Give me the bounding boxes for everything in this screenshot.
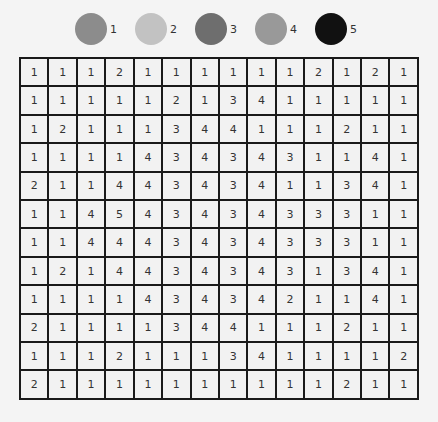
grid-cell: 2 xyxy=(105,342,133,370)
grid-cell: 1 xyxy=(361,200,389,228)
legend-label: 2 xyxy=(170,23,177,36)
grid-cell: 1 xyxy=(333,58,361,86)
grid-cell: 2 xyxy=(389,342,418,370)
grid-cell: 4 xyxy=(134,200,162,228)
grid-cell: 3 xyxy=(219,285,247,313)
grid-cell: 1 xyxy=(247,58,275,86)
grid-cell: 1 xyxy=(134,115,162,143)
grid-cell: 1 xyxy=(361,86,389,114)
grid-cell: 1 xyxy=(162,58,190,86)
grid-cell: 1 xyxy=(304,172,332,200)
grid-cell: 1 xyxy=(191,86,219,114)
grid-cell: 1 xyxy=(77,172,105,200)
grid-cell: 4 xyxy=(77,228,105,256)
grid-cell: 1 xyxy=(162,370,190,399)
grid-cell: 1 xyxy=(77,115,105,143)
grid-cell: 1 xyxy=(134,58,162,86)
grid-cell: 4 xyxy=(191,257,219,285)
grid-cell: 1 xyxy=(48,86,76,114)
legend-label: 3 xyxy=(230,23,237,36)
grid-cell: 1 xyxy=(48,200,76,228)
grid-cell: 1 xyxy=(361,115,389,143)
grid-cell: 4 xyxy=(247,86,275,114)
grid-cell: 4 xyxy=(219,314,247,342)
grid-cell: 1 xyxy=(20,86,48,114)
grid-cell: 4 xyxy=(105,172,133,200)
grid-cell: 3 xyxy=(162,200,190,228)
grid-cell: 4 xyxy=(77,200,105,228)
grid-cell: 3 xyxy=(219,172,247,200)
grid-cell: 1 xyxy=(48,143,76,171)
grid-row: 21111111111211 xyxy=(20,370,418,399)
grid-cell: 1 xyxy=(77,257,105,285)
grid-cell: 2 xyxy=(304,58,332,86)
legend-item-5: 5 xyxy=(315,13,357,45)
legend-label: 5 xyxy=(350,23,357,36)
legend-item-4: 4 xyxy=(255,13,297,45)
grid-cell: 2 xyxy=(276,285,304,313)
legend-item-3: 3 xyxy=(195,13,237,45)
grid-cell: 3 xyxy=(162,314,190,342)
grid-cell: 4 xyxy=(361,143,389,171)
grid-cell: 4 xyxy=(191,115,219,143)
grid-cell: 1 xyxy=(276,115,304,143)
grid-cell: 2 xyxy=(20,314,48,342)
grid-cell: 1 xyxy=(361,370,389,399)
grid-cell: 1 xyxy=(389,314,418,342)
grid-cell: 3 xyxy=(276,257,304,285)
grid-row: 11114343431141 xyxy=(20,143,418,171)
grid-cell: 3 xyxy=(219,257,247,285)
grid-row: 21144343411341 xyxy=(20,172,418,200)
grid-cell: 2 xyxy=(333,115,361,143)
grid-cell: 4 xyxy=(191,200,219,228)
grid-cell: 3 xyxy=(276,228,304,256)
grid-cell: 1 xyxy=(304,342,332,370)
grid-cell: 1 xyxy=(20,228,48,256)
grid-cell: 1 xyxy=(333,143,361,171)
grid-cell: 4 xyxy=(247,200,275,228)
grid-cell: 2 xyxy=(333,314,361,342)
grid-cell: 1 xyxy=(304,143,332,171)
grid-cell: 1 xyxy=(389,86,418,114)
grid-cell: 1 xyxy=(105,86,133,114)
grid-cell: 3 xyxy=(276,200,304,228)
grid-cell: 4 xyxy=(361,172,389,200)
grid-cell: 4 xyxy=(191,285,219,313)
grid-cell: 4 xyxy=(105,257,133,285)
grid-cell: 1 xyxy=(48,342,76,370)
grid-cell: 3 xyxy=(333,200,361,228)
grid-cell: 1 xyxy=(20,58,48,86)
grid-cell: 1 xyxy=(20,115,48,143)
grid-cell: 1 xyxy=(134,370,162,399)
grid-cell: 1 xyxy=(48,285,76,313)
grid-cell: 1 xyxy=(304,314,332,342)
grid-cell: 3 xyxy=(333,172,361,200)
grid-cell: 1 xyxy=(48,314,76,342)
grid-cell: 1 xyxy=(276,86,304,114)
grid-cell: 1 xyxy=(77,143,105,171)
grid-cell: 1 xyxy=(48,172,76,200)
grid-cell: 2 xyxy=(105,58,133,86)
grid-cell: 4 xyxy=(247,342,275,370)
grid-cell: 4 xyxy=(247,285,275,313)
legend-label: 1 xyxy=(110,23,117,36)
grid-cell: 1 xyxy=(162,342,190,370)
grid-cell: 1 xyxy=(247,115,275,143)
grid-cell: 1 xyxy=(20,342,48,370)
grid-cell: 1 xyxy=(361,228,389,256)
grid-cell: 5 xyxy=(105,200,133,228)
grid-cell: 2 xyxy=(162,86,190,114)
grid-cell: 3 xyxy=(333,228,361,256)
grid-cell: 1 xyxy=(105,370,133,399)
grid-cell: 3 xyxy=(162,228,190,256)
grid-cell: 1 xyxy=(105,115,133,143)
grid-cell: 1 xyxy=(276,370,304,399)
grid-cell: 1 xyxy=(105,314,133,342)
grid-cell: 4 xyxy=(134,143,162,171)
grid-cell: 1 xyxy=(48,370,76,399)
grid-row: 11121111112121 xyxy=(20,58,418,86)
grid-cell: 1 xyxy=(219,58,247,86)
grid-cell: 1 xyxy=(247,314,275,342)
grid-cell: 1 xyxy=(77,314,105,342)
color-swatch-icon xyxy=(75,13,107,45)
